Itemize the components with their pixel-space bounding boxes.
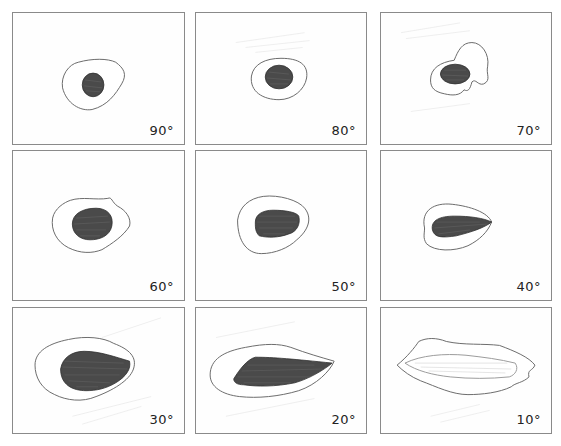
angle-label: 70°	[516, 123, 541, 138]
angle-label: 80°	[331, 123, 356, 138]
angle-label: 60°	[149, 279, 174, 294]
panel-30-degrees: 30°	[12, 307, 185, 434]
panel-90-degrees: 90°	[12, 12, 185, 145]
panel-70-degrees: 70°	[380, 12, 552, 145]
angle-label: 40°	[516, 279, 541, 294]
dark-core	[440, 64, 470, 84]
panel-80-degrees: 80°	[195, 12, 367, 145]
panel-10-degrees: 10°	[380, 307, 552, 434]
dark-core	[82, 73, 104, 97]
sketch-50-degrees	[196, 151, 366, 300]
angle-label: 90°	[149, 123, 174, 138]
panel-50-degrees: 50°	[195, 150, 367, 301]
angle-label: 50°	[331, 279, 356, 294]
dark-core	[265, 65, 293, 89]
panel-60-degrees: 60°	[12, 150, 185, 301]
panel-20-degrees: 20°	[195, 307, 367, 434]
dark-core	[234, 357, 332, 386]
sketch-60-degrees	[13, 151, 184, 300]
angle-label: 10°	[516, 412, 541, 427]
angle-label: 20°	[331, 412, 356, 427]
sketch-40-degrees	[381, 151, 551, 300]
panel-40-degrees: 40°	[380, 150, 552, 301]
angle-label: 30°	[149, 412, 174, 427]
